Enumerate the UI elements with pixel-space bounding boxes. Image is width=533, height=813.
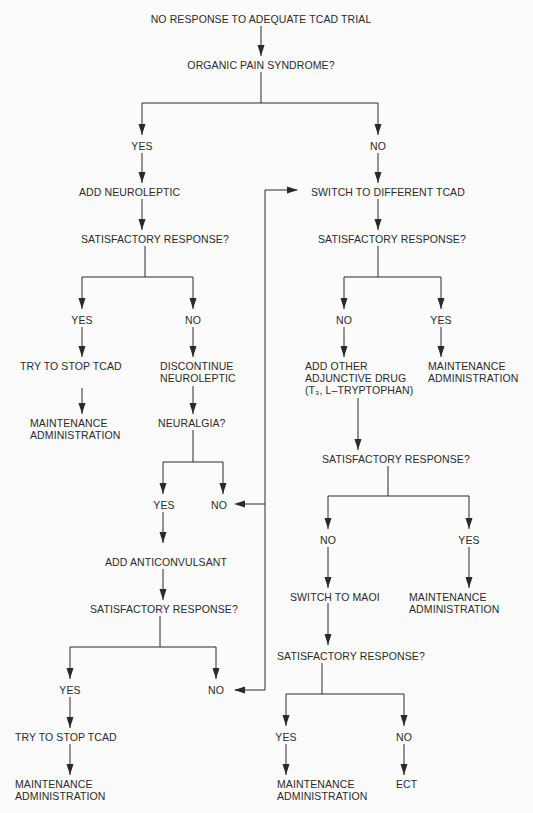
- node-ect: ECT: [396, 778, 417, 790]
- arrowhead-icon: [375, 219, 382, 230]
- arrowhead-icon: [438, 298, 445, 309]
- node-add-anticonvulsant: ADD ANTICONVULSANT: [105, 556, 227, 568]
- arrowhead-icon: [213, 668, 220, 679]
- node-add-adjunctive-drug: ADD OTHER ADJUNCTIVE DRUG (T₃, L–TRYPTOP…: [305, 360, 413, 396]
- node-organic-pain-question: ORGANIC PAIN SYNDROME?: [187, 59, 334, 71]
- arrowhead-icon: [67, 668, 74, 679]
- node-yes-sat3: YES: [430, 314, 451, 326]
- arrowhead-icon: [67, 764, 74, 775]
- node-no-sat2: NO: [208, 684, 224, 696]
- node-yes-neuralgia: YES: [153, 499, 174, 511]
- node-satisfactory-response-1: SATISFACTORY RESPONSE?: [81, 233, 229, 245]
- arrowhead-icon: [160, 532, 167, 543]
- node-no-sat5: NO: [396, 731, 412, 743]
- split-sat1-bar: [82, 277, 193, 309]
- arrowhead-icon: [466, 518, 473, 529]
- node-try-stop-tcad-2: TRY TO STOP TCAD: [15, 731, 117, 743]
- node-no-sat1: NO: [185, 314, 201, 326]
- arrowhead-icon: [355, 439, 362, 450]
- node-maintenance-4: MAINTENANCE ADMINISTRATION: [409, 591, 499, 615]
- node-maintenance-3: MAINTENANCE ADMINISTRATION: [428, 360, 518, 384]
- edge-loop-to-switch-tcad: [235, 190, 297, 690]
- arrowhead-icon: [283, 764, 290, 775]
- arrowhead-icon: [375, 124, 382, 135]
- node-yes-sat1: YES: [71, 314, 92, 326]
- node-neuralgia-question: NEURALGIA?: [158, 417, 226, 429]
- arrowhead-icon: [325, 634, 332, 645]
- arrowhead-icon: [67, 717, 74, 728]
- arrowhead-icon: [190, 346, 197, 357]
- arrowhead-icon: [139, 124, 146, 135]
- arrowhead-icon: [401, 764, 408, 775]
- split-sat4-bar: [328, 496, 469, 529]
- arrowhead-icon: [401, 715, 408, 726]
- node-no-organic: NO: [370, 140, 386, 152]
- node-no-sat4: NO: [320, 534, 336, 546]
- split-organic-bar: [142, 103, 378, 135]
- arrowhead-icon: [341, 298, 348, 309]
- arrowhead-icon: [79, 298, 86, 309]
- split-sat2-bar: [70, 647, 216, 679]
- arrowhead-icon: [438, 346, 445, 357]
- node-yes-organic: YES: [131, 140, 152, 152]
- node-satisfactory-response-2: SATISFACTORY RESPONSE?: [90, 603, 238, 615]
- arrowhead-icon: [79, 403, 86, 414]
- node-satisfactory-response-4: SATISFACTORY RESPONSE?: [322, 453, 470, 465]
- node-maintenance-5: MAINTENANCE ADMINISTRATION: [277, 778, 367, 802]
- node-add-neuroleptic: ADD NEUROLEPTIC: [79, 186, 180, 198]
- arrowhead-icon: [234, 501, 245, 508]
- node-discontinue-neuroleptic: DISCONTINUE NEUROLEPTIC: [160, 360, 236, 384]
- arrowhead-icon: [287, 187, 298, 194]
- split-sat3-bar: [344, 277, 441, 309]
- node-yes-sat2: YES: [59, 684, 80, 696]
- arrowhead-icon: [220, 483, 227, 494]
- arrowhead-icon: [341, 346, 348, 357]
- arrowhead-icon: [325, 518, 332, 529]
- node-maintenance-2: MAINTENANCE ADMINISTRATION: [15, 778, 105, 802]
- arrowhead-icon: [190, 298, 197, 309]
- arrowhead-icon: [79, 346, 86, 357]
- arrowhead-icon: [283, 715, 290, 726]
- arrowhead-icon: [325, 577, 332, 588]
- node-try-stop-tcad-1: TRY TO STOP TCAD: [20, 360, 122, 372]
- arrowhead-icon: [139, 219, 146, 230]
- node-switch-different-tcad: SWITCH TO DIFFERENT TCAD: [311, 186, 465, 198]
- node-yes-sat5: YES: [275, 731, 296, 743]
- node-satisfactory-response-3: SATISFACTORY RESPONSE?: [318, 233, 466, 245]
- node-no-sat3: NO: [336, 314, 352, 326]
- node-yes-sat4: YES: [458, 534, 479, 546]
- node-no-neuralgia: NO: [211, 499, 227, 511]
- arrowhead-icon: [466, 577, 473, 588]
- node-maintenance-1: MAINTENANCE ADMINISTRATION: [30, 417, 120, 441]
- node-satisfactory-response-5: SATISFACTORY RESPONSE?: [277, 650, 425, 662]
- arrowhead-icon: [139, 172, 146, 183]
- split-neuralgia-bar: [163, 462, 223, 494]
- arrowhead-icon: [258, 45, 265, 56]
- arrowhead-icon: [160, 483, 167, 494]
- arrowhead-icon: [375, 172, 382, 183]
- arrowhead-icon: [234, 687, 245, 694]
- node-start: NO RESPONSE TO ADEQUATE TCAD TRIAL: [151, 13, 372, 25]
- arrowhead-icon: [160, 589, 167, 600]
- node-switch-maoi: SWITCH TO MAOI: [290, 591, 380, 603]
- split-sat5-bar: [286, 694, 404, 726]
- arrowhead-icon: [190, 403, 197, 414]
